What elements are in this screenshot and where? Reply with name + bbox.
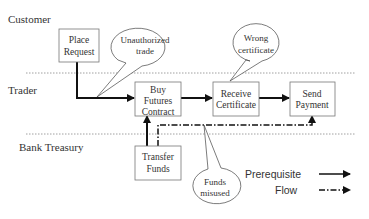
box-receive-certificate: Receive Certificate bbox=[213, 82, 259, 116]
svg-text:Request: Request bbox=[64, 47, 95, 57]
legend: Prerequisite Flow bbox=[245, 168, 350, 196]
svg-text:Funds: Funds bbox=[146, 164, 170, 174]
lane-label-trader: Trader bbox=[8, 84, 37, 96]
box-transfer-funds: Transfer Funds bbox=[135, 146, 181, 180]
svg-text:Transfer: Transfer bbox=[142, 152, 175, 162]
svg-text:certificate: certificate bbox=[238, 45, 274, 55]
callout-funds-misused: Funds misused bbox=[193, 125, 241, 204]
svg-text:Place: Place bbox=[69, 35, 90, 45]
svg-text:Contract: Contract bbox=[142, 107, 175, 117]
legend-prerequisite-label: Prerequisite bbox=[245, 168, 301, 180]
svg-text:Receive: Receive bbox=[221, 89, 252, 99]
callout-wrong-certificate: Wrong certificate bbox=[230, 24, 279, 81]
legend-flow-label: Flow bbox=[275, 184, 298, 196]
svg-text:Unauthorized: Unauthorized bbox=[121, 35, 170, 45]
process-diagram: Customer Trader Bank Treasury Place Requ… bbox=[0, 0, 369, 219]
svg-text:Futures: Futures bbox=[144, 96, 173, 106]
box-send-payment: Send Payment bbox=[290, 82, 335, 116]
flow-transfer-to-send bbox=[158, 116, 312, 146]
lane-label-bank-treasury: Bank Treasury bbox=[19, 141, 84, 153]
svg-text:misused: misused bbox=[200, 188, 230, 198]
svg-text:Send: Send bbox=[303, 89, 322, 99]
lane-label-customer: Customer bbox=[8, 13, 51, 25]
svg-text:trade: trade bbox=[136, 46, 154, 56]
svg-text:Funds: Funds bbox=[204, 177, 227, 187]
svg-text:Payment: Payment bbox=[295, 100, 329, 110]
svg-text:Wrong: Wrong bbox=[244, 33, 269, 43]
svg-text:Certificate: Certificate bbox=[216, 100, 256, 110]
svg-text:Buy: Buy bbox=[150, 85, 166, 95]
box-buy-futures-contract: Buy Futures Contract bbox=[135, 82, 181, 117]
box-place-request: Place Request bbox=[59, 29, 99, 62]
